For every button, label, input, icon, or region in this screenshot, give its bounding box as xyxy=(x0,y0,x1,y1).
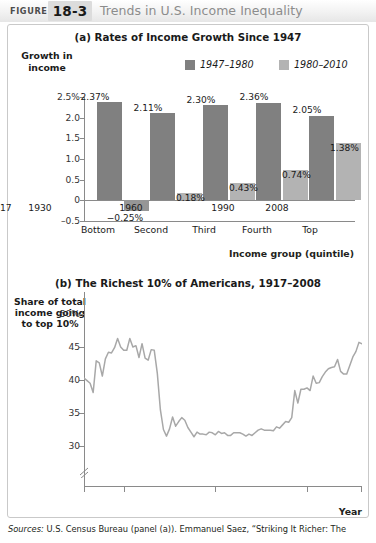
legend-swatch-1980-2010 xyxy=(279,60,289,70)
sources-note: Sources: U.S. Census Bureau (panel (a)).… xyxy=(8,524,370,534)
bar-top-1947-1980 xyxy=(309,116,334,201)
figure-number: 18-3 xyxy=(48,3,92,19)
panel-a-xlabel-top: Top xyxy=(283,224,337,235)
panel-a-ylabel-2.0: 2.0 xyxy=(44,113,80,123)
bar-label-top-1980-2010: 1.38% xyxy=(330,143,376,153)
panel-a-ylabel-1.0: 1.0 xyxy=(44,154,80,164)
panel-a-xlabel-fourth: Fourth xyxy=(230,224,284,235)
panel-b-xlabel-1930: 1930 xyxy=(19,202,61,213)
panel-a-ytick-2.0 xyxy=(80,118,85,119)
panel-a-title: (a) Rates of Income Growth Since 1947 xyxy=(0,31,376,43)
panel-a-xlabel-second: Second xyxy=(124,224,178,235)
figure-header: FIGURE 18-3 Trends in U.S. Income Inequa… xyxy=(0,0,376,22)
panel-a-x-axis-title: Income group (quintile) xyxy=(0,248,362,259)
figure-title: Trends in U.S. Income Inequality xyxy=(100,3,303,18)
panel-b-plot-area xyxy=(84,292,362,488)
panel-a-ytick-0.5 xyxy=(80,180,85,181)
figure-label: FIGURE xyxy=(10,6,48,16)
bar-label-third-1947-1980: 2.30% xyxy=(176,95,226,105)
panel-b-xlabel-2008: 2008 xyxy=(256,202,298,213)
legend-swatch-1947-1980 xyxy=(185,60,195,70)
panel-b-line-series xyxy=(84,292,362,488)
legend-label-1947-1980: 1947–1980 xyxy=(200,59,254,70)
panel-a-xlabel-bottom: Bottom xyxy=(71,224,125,235)
panel-a-ylabel-0.5: 0.5 xyxy=(44,175,80,185)
bar-label-third-1980-2010: 0.43% xyxy=(229,183,279,193)
panel-b-ylabel-50: 50% xyxy=(44,309,80,319)
bar-label-second-1947-1980: 2.11% xyxy=(123,103,173,113)
bar-label-fourth-1947-1980: 2.36% xyxy=(229,92,279,102)
bar-label-top-1947-1980: 2.05% xyxy=(282,105,332,115)
panel-a-ylabel-1.5: 1.5 xyxy=(44,133,80,143)
panel-a-ytick-1.5 xyxy=(80,138,85,139)
bar-label-bottom-1947-1980: 2.37% xyxy=(70,92,120,102)
panel-b-xlabel-1990: 1990 xyxy=(202,202,244,213)
sources-text: U.S. Census Bureau (panel (a)). Emmanuel… xyxy=(44,524,346,534)
bar-bottom-1947-1980 xyxy=(97,102,122,200)
panel-a-y-axis-label: Growth in income xyxy=(16,50,78,73)
bar-label-fourth-1980-2010: 0.74% xyxy=(282,170,332,180)
bar-second-1947-1980 xyxy=(150,113,175,200)
legend-label-1980-2010: 1980–2010 xyxy=(294,59,348,70)
panel-a-ytick-1.0 xyxy=(80,159,85,160)
panel-b-ylabel-45: 45 xyxy=(44,342,80,352)
panel-b-ylabel-35: 35 xyxy=(44,408,80,418)
sources-label: Sources: xyxy=(8,524,44,534)
panel-b-title: (b) The Richest 10% of Americans, 1917–2… xyxy=(0,277,376,289)
panel-b-xlabel-1917: 1917 xyxy=(0,202,21,213)
panel-b-xlabel-1960: 1960 xyxy=(110,202,152,213)
bar-label-bottom-1980-2010: −0.25% xyxy=(98,213,152,223)
panel-b-x-axis-title: Year xyxy=(84,506,362,517)
panel-a-xlabel-third: Third xyxy=(177,224,231,235)
panel-b-ylabel-30: 30 xyxy=(44,441,80,451)
panel-a-legend: 1947–1980 1980–2010 xyxy=(185,58,365,71)
panel-b-ylabel-40: 40 xyxy=(44,375,80,385)
bar-third-1947-1980 xyxy=(203,105,228,200)
